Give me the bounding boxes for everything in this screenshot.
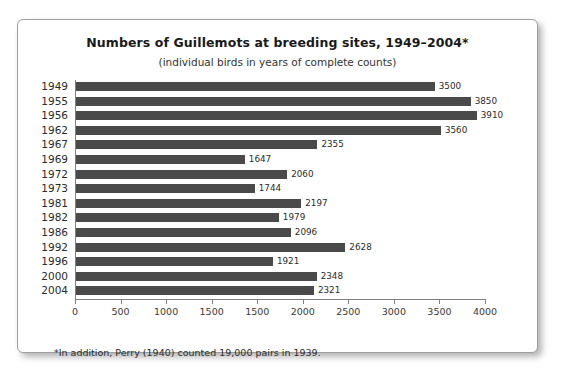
chart-title: Numbers of Guillemots at breeding sites,… — [18, 35, 537, 50]
x-axis-tick — [303, 299, 304, 304]
bar-row: 19812197 — [75, 197, 485, 212]
x-axis-tick-label: 1000 — [154, 306, 178, 317]
x-axis-tick — [439, 299, 440, 304]
bar — [76, 228, 291, 237]
x-axis-tick — [257, 299, 258, 304]
x-axis-tick-label: 0 — [72, 306, 78, 317]
category-label: 1982 — [41, 211, 68, 223]
bar — [76, 155, 245, 164]
bar-row: 19672355 — [75, 138, 485, 153]
bar-value-label: 2197 — [305, 198, 327, 208]
bar-row: 19922628 — [75, 241, 485, 256]
bar — [76, 184, 255, 193]
category-label: 2000 — [41, 270, 68, 282]
bar-value-label: 1979 — [283, 212, 305, 222]
bar — [76, 126, 441, 135]
bar-value-label: 2628 — [349, 242, 371, 252]
bar — [76, 243, 345, 252]
bar-row: 19493500 — [75, 80, 485, 95]
x-axis-tick — [75, 299, 76, 304]
bar — [76, 213, 279, 222]
bar-value-label: 2096 — [295, 227, 317, 237]
x-axis-tick-label: 4000 — [473, 306, 497, 317]
category-label: 1969 — [41, 153, 68, 165]
category-label: 1956 — [41, 109, 68, 121]
bar-row: 19691647 — [75, 153, 485, 168]
bar-value-label: 2060 — [291, 169, 313, 179]
x-axis-tick-label: 500 — [111, 306, 129, 317]
category-label: 1972 — [41, 168, 68, 180]
x-axis-tick-label: 1500 — [200, 306, 224, 317]
bar — [76, 199, 301, 208]
bar — [76, 272, 317, 281]
x-axis-tick-label: 2500 — [336, 306, 360, 317]
bar-value-label: 2321 — [318, 285, 340, 295]
bar-value-label: 1921 — [277, 256, 299, 266]
x-axis-tick — [485, 299, 486, 304]
bar-value-label: 3560 — [445, 125, 467, 135]
bar — [76, 286, 314, 295]
bar — [76, 97, 471, 106]
bar-row: 19821979 — [75, 211, 485, 226]
category-label: 1962 — [41, 124, 68, 136]
x-axis-tick-label: 3000 — [382, 306, 406, 317]
bar — [76, 82, 435, 91]
bar-value-label: 2355 — [321, 139, 343, 149]
bar-value-label: 1647 — [249, 154, 271, 164]
category-label: 1992 — [41, 241, 68, 253]
bar-value-label: 3850 — [475, 96, 497, 106]
plot-area: 050010001500150020002500300035004000 194… — [75, 80, 485, 299]
bar-row: 19553850 — [75, 95, 485, 110]
bar — [76, 170, 287, 179]
bar-row: 19563910 — [75, 109, 485, 124]
chart-footnote: *In addition, Perry (1940) counted 19,00… — [54, 347, 321, 358]
category-label: 1967 — [41, 138, 68, 150]
category-label: 2004 — [41, 284, 68, 296]
bar-row: 20002348 — [75, 270, 485, 285]
bar-row: 19722060 — [75, 168, 485, 183]
bar-row: 19862096 — [75, 226, 485, 241]
category-label: 1973 — [41, 182, 68, 194]
x-axis-tick — [121, 299, 122, 304]
bar-row: 20042321 — [75, 284, 485, 299]
bar-value-label: 1744 — [259, 183, 281, 193]
bar — [76, 257, 273, 266]
bar-value-label: 3500 — [439, 81, 461, 91]
x-axis-tick-label: 3500 — [427, 306, 451, 317]
x-axis-tick — [166, 299, 167, 304]
bar-row: 19731744 — [75, 182, 485, 197]
x-axis-tick-label: 2000 — [291, 306, 315, 317]
chart-subtitle: (individual birds in years of complete c… — [18, 56, 537, 68]
bar-value-label: 2348 — [321, 271, 343, 281]
category-label: 1981 — [41, 197, 68, 209]
category-label: 1996 — [41, 255, 68, 267]
x-axis-tick-label: 1500 — [245, 306, 269, 317]
bar-row: 19961921 — [75, 255, 485, 270]
bar — [76, 140, 317, 149]
screenshot-root: Numbers of Guillemots at breeding sites,… — [0, 0, 570, 385]
bar-value-label: 3910 — [481, 110, 503, 120]
x-axis-tick — [394, 299, 395, 304]
bar-row: 19623560 — [75, 124, 485, 139]
x-axis-tick — [348, 299, 349, 304]
x-axis-line — [75, 299, 485, 300]
x-axis-tick — [212, 299, 213, 304]
category-label: 1986 — [41, 226, 68, 238]
bar — [76, 111, 477, 120]
category-label: 1955 — [41, 95, 68, 107]
category-label: 1949 — [41, 80, 68, 92]
